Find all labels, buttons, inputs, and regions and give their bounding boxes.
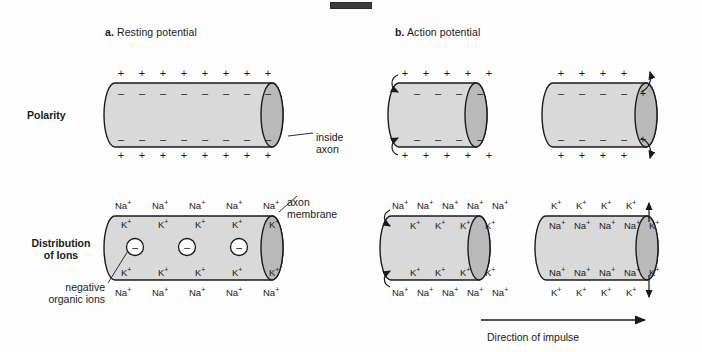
ion-label-na: Na+ [467,288,483,298]
ion-label-na: Na+ [492,288,508,298]
ion-label-k: K+ [626,201,636,211]
polarity-sign-plus: + [484,150,494,160]
polarity-sign-minus: – [200,134,210,144]
negative-ion-symbol: – [234,242,244,252]
ion-label-k: K+ [460,268,470,278]
ion-label-k: K+ [410,268,420,278]
figure-canvas: a. Resting potential b. Action potential… [0,0,702,352]
polarity-sign-plus: + [116,68,126,78]
polarity-sign-minus: – [598,88,608,98]
polarity-sign-minus: – [179,134,189,144]
ion-label-inside-top: K+ [649,221,659,231]
polarity-sign-minus: – [158,88,168,98]
ion-label-k: K+ [551,201,561,211]
ion-label-na: Na+ [467,201,483,211]
polarity-sign-minus: – [454,88,464,98]
polarity-sign-minus: – [242,134,252,144]
ion-label-k: K+ [410,221,420,231]
polarity-sign-plus: + [179,68,189,78]
polarity-sign-plus: + [263,68,273,78]
polarity-sign-plus: + [598,68,608,78]
ion-label-k: K+ [485,268,495,278]
ion-label-inside-bottom: K+ [649,268,659,278]
polarity-sign-minus: – [556,134,566,144]
polarity-sign-plus: + [242,68,252,78]
polarity-sign-minus: – [158,134,168,144]
polarity-sign-minus: – [137,134,147,144]
diagram-graphics [0,0,702,352]
polarity-sign-minus: – [454,134,464,144]
ion-label-inside-top: Na+ [574,221,590,231]
ion-label-na: Na+ [152,201,168,211]
ion-label-inside-bottom: Na+ [574,268,590,278]
ion-label-k: K+ [601,201,611,211]
polarity-sign-plus: + [442,150,452,160]
ion-label-na: Na+ [442,288,458,298]
polarity-sign-plus: + [619,68,629,78]
ion-label-k: K+ [158,268,168,278]
ion-label-k: K+ [232,220,242,230]
ion-label-k: K+ [269,268,279,278]
ion-label-k: K+ [435,268,445,278]
ion-label-k: K+ [460,221,470,231]
ion-label-inside-bottom: Na+ [599,268,615,278]
ion-label-k: K+ [158,220,168,230]
polarity-sign-plus: + [200,150,210,160]
ion-label-inside-top: Na+ [599,221,615,231]
ion-label-na: Na+ [417,201,433,211]
polarity-sign-plus-depolarized: + [638,134,648,144]
polarity-sign-minus: – [263,134,273,144]
polarity-sign-plus: + [442,68,452,78]
polarity-sign-minus: – [619,134,629,144]
polarity-sign-minus: – [475,134,485,144]
ion-label-k: K+ [551,288,561,298]
polarity-sign-minus: – [475,88,485,98]
ion-label-na: Na+ [226,201,242,211]
polarity-sign-minus: – [598,134,608,144]
polarity-sign-plus: + [598,150,608,160]
ion-label-na: Na+ [226,288,242,298]
polarity-sign-minus: – [433,88,443,98]
polarity-sign-plus: + [158,150,168,160]
polarity-sign-minus: – [221,134,231,144]
polarity-sign-plus: + [577,68,587,78]
ion-label-inside-bottom: Na+ [624,268,640,278]
polarity-sign-minus: – [116,134,126,144]
polarity-sign-plus: + [619,150,629,160]
polarity-sign-plus: + [556,150,566,160]
ion-label-na: Na+ [442,201,458,211]
polarity-sign-minus: – [412,134,422,144]
polarity-sign-plus-depolarized: + [638,88,648,98]
polarity-sign-plus: + [463,68,473,78]
polarity-sign-minus: – [556,88,566,98]
polarity-sign-plus: + [400,68,410,78]
polarity-sign-plus: + [137,150,147,160]
ion-label-k: K+ [601,288,611,298]
ion-label-k: K+ [195,220,205,230]
polarity-sign-plus: + [463,150,473,160]
polarity-sign-minus: – [433,134,443,144]
polarity-sign-minus: – [577,134,587,144]
ion-label-k: K+ [232,268,242,278]
polarity-sign-plus: + [158,68,168,78]
ion-label-k: K+ [121,220,131,230]
ion-label-na: Na+ [392,288,408,298]
ion-label-na: Na+ [189,288,205,298]
ion-label-na: Na+ [417,288,433,298]
polarity-sign-plus: + [421,150,431,160]
polarity-sign-minus: – [221,88,231,98]
leader-axon-membrane [279,196,297,212]
polarity-sign-minus: – [577,88,587,98]
polarity-sign-minus: – [200,88,210,98]
ion-label-na: Na+ [115,201,131,211]
polarity-sign-minus: – [619,88,629,98]
ion-label-k: K+ [121,268,131,278]
polarity-sign-plus: + [263,150,273,160]
ion-label-inside-top: Na+ [549,221,565,231]
ion-label-k: K+ [626,288,636,298]
polarity-sign-plus: + [400,150,410,160]
polarity-sign-plus: + [242,150,252,160]
ion-label-k: K+ [435,221,445,231]
negative-ion-symbol: – [130,242,140,252]
polarity-sign-plus: + [179,150,189,160]
